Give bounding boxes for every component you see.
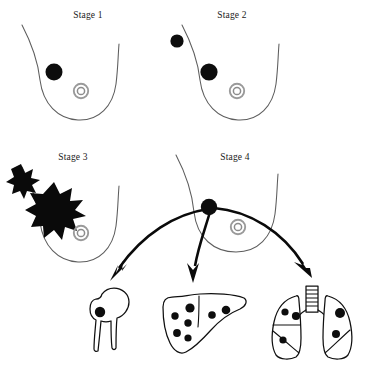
liver-lesion-5 <box>184 334 191 341</box>
arrow-to-liver-shaft <box>195 212 210 266</box>
stage-1-label: Stage 1 <box>73 10 103 20</box>
bone-lesion-1 <box>95 307 105 317</box>
arrow-to-liver-head <box>187 263 199 283</box>
stage-2-tumor-inside <box>200 63 217 80</box>
breast-cancer-stages-diagram: Stage 1 Stage 2 Stage 3 <box>0 0 366 366</box>
stage-4-label: Stage 4 <box>220 152 250 162</box>
lung-lesion-2 <box>292 312 300 320</box>
liver-lesion-1 <box>185 303 194 312</box>
stage-2-breast-outline <box>182 25 279 120</box>
stage-2-nipple-outer-ring <box>230 84 244 98</box>
lung-lesion-4 <box>335 308 345 318</box>
stage-4-primary-tumor <box>201 199 217 215</box>
arrow-to-lung-shaft <box>214 208 303 264</box>
stage-2-label: Stage 2 <box>217 10 247 20</box>
diagram-canvas: Stage 1 Stage 2 Stage 3 <box>0 0 366 366</box>
stage-3-label: Stage 3 <box>58 152 88 162</box>
panel-stage-3: Stage 3 <box>6 152 119 262</box>
lung-lesion-5 <box>332 330 340 338</box>
stage-4-nipple-outer-ring <box>231 220 245 234</box>
stage-4-nipple-inner-ring <box>234 223 241 230</box>
organ-lung <box>272 286 351 359</box>
lung-lesion-1 <box>281 308 288 315</box>
liver-lesion-6 <box>208 311 216 319</box>
stage-2-nipple-inner-ring <box>233 87 240 94</box>
metastasis-arrow-group <box>110 208 312 283</box>
liver-lesion-4 <box>173 329 181 337</box>
panel-stage-4: Stage 4 <box>110 152 312 283</box>
left-lung-outline <box>272 296 301 359</box>
stage-3-nipple-outer-ring <box>74 226 88 240</box>
liver-outline <box>163 294 246 353</box>
stage-2-tumor-lymph-node <box>170 34 183 47</box>
lung-lesion-3 <box>279 336 286 343</box>
liver-lesion-7 <box>222 306 231 315</box>
stage-1-nipple-inner-ring <box>77 87 84 94</box>
right-lung-outline <box>323 296 352 359</box>
panel-stage-1: Stage 1 <box>22 10 119 120</box>
stage-1-tumor-inside <box>46 64 63 81</box>
organ-liver <box>163 294 246 353</box>
liver-lesion-3 <box>184 319 191 326</box>
arrow-to-lung-head <box>294 256 312 278</box>
organ-bone <box>90 288 129 351</box>
liver-lesion-2 <box>171 312 178 319</box>
panel-stage-2: Stage 2 <box>170 10 279 120</box>
femur-outline <box>90 288 129 351</box>
stage-3-nipple-inner-ring <box>77 229 84 236</box>
stage-1-nipple-outer-ring <box>74 84 88 98</box>
stage-4-breast-outline <box>176 155 278 252</box>
arrow-to-bone-head <box>110 261 127 281</box>
stage-1-breast-outline <box>22 25 119 120</box>
